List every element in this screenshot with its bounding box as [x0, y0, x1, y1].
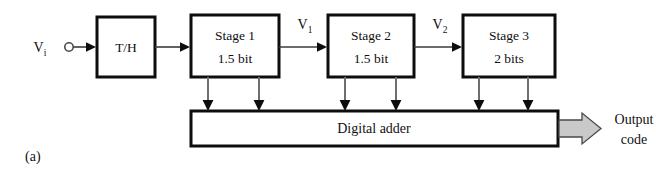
- block-stage3-label-line1: Stage 3: [489, 28, 529, 43]
- tap-arrowhead-stage2-b-icon: [391, 100, 402, 111]
- block-stage1[interactable]: Stage 1 1.5 bit: [191, 15, 279, 77]
- output-label-line2: code: [621, 132, 647, 147]
- signal-v2-label: V2: [433, 17, 448, 35]
- input-signal-label: Vi: [34, 40, 47, 58]
- wire-th-stage1-arrowhead-icon: [180, 42, 190, 52]
- output-label-line1: Output: [615, 112, 654, 127]
- open-circle-terminal-icon: [65, 43, 73, 51]
- tap-arrowhead-stage2-a-icon: [340, 100, 351, 111]
- block-stage3-rect[interactable]: [463, 15, 555, 77]
- wire-stage1-stage2-arrowhead-icon: [317, 42, 327, 52]
- block-stage3[interactable]: Stage 3 2 bits: [463, 15, 555, 77]
- block-stage1-label-line2: 1.5 bit: [218, 51, 253, 66]
- tap-arrowhead-stage1-b-icon: [254, 100, 265, 111]
- signal-v2-group: V2: [414, 17, 462, 52]
- signal-v1-label: V1: [298, 17, 313, 35]
- block-stage1-label-line1: Stage 1: [215, 28, 255, 43]
- block-stage1-rect[interactable]: [191, 15, 279, 77]
- wire-th-to-stage1: [155, 42, 190, 52]
- input-signal-group: Vi: [34, 40, 96, 58]
- figure-caption: (a): [25, 149, 41, 165]
- tap-arrowhead-stage3-b-icon: [523, 100, 534, 111]
- tap-arrowhead-stage1-a-icon: [203, 100, 214, 111]
- input-arrowhead-icon: [86, 42, 96, 52]
- block-stage2-label-line1: Stage 2: [351, 28, 391, 43]
- block-stage2-rect[interactable]: [328, 15, 414, 77]
- block-digital-adder[interactable]: Digital adder: [191, 111, 558, 146]
- block-arrow-right-icon: [559, 113, 601, 144]
- tap-arrowhead-stage3-a-icon: [474, 100, 485, 111]
- block-th-label: T/H: [115, 40, 137, 55]
- block-th[interactable]: T/H: [97, 17, 155, 77]
- block-digital-adder-label: Digital adder: [337, 121, 411, 136]
- pipelined-adc-diagram: Vi T/H Stage 1 1.5 bit V1: [0, 0, 656, 169]
- block-stage2-label-line2: 1.5 bit: [354, 51, 389, 66]
- figure-canvas: Vi T/H Stage 1 1.5 bit V1: [0, 0, 656, 169]
- stage-tap-wires: [203, 77, 534, 111]
- signal-v1-group: V1: [279, 17, 327, 52]
- wire-stage2-stage3-arrowhead-icon: [452, 42, 462, 52]
- block-stage2[interactable]: Stage 2 1.5 bit: [328, 15, 414, 77]
- block-stage3-label-line2: 2 bits: [494, 51, 524, 66]
- output-group: Output code: [559, 112, 654, 147]
